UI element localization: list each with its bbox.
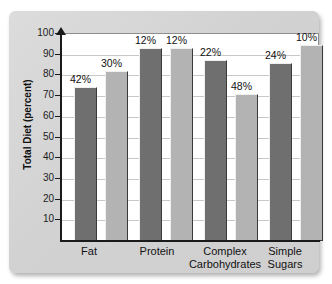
y-tick-label-30: 30	[14, 173, 54, 183]
y-tick-label-50: 50	[14, 132, 54, 142]
bar-fat-light	[105, 71, 128, 241]
value-label-complexcarb-light: 48%	[231, 81, 252, 92]
y-tick-label-90: 90	[14, 49, 54, 59]
bar-simplesugar-dark	[269, 63, 292, 241]
x-category-label-protein: Protein	[123, 245, 191, 258]
bar-protein-light	[170, 48, 193, 241]
x-category-label-complexcarbs: Complex Carbohydrates	[184, 245, 266, 270]
bar-protein-dark	[139, 48, 162, 241]
bars-layer: 42% 30% 12% 12% 22% 48% 24% 10%	[60, 33, 319, 241]
value-label-protein-dark: 12%	[135, 35, 156, 46]
x-axis-line	[60, 240, 320, 242]
bar-simplesugar-light	[300, 45, 323, 241]
value-label-simplesugar-dark: 24%	[265, 50, 286, 61]
y-tick-label-70: 70	[14, 90, 54, 100]
value-label-fat-light: 30%	[101, 58, 122, 69]
y-axis-ticks: 100 90 80 70 60 50 40 30 20 10	[9, 11, 54, 284]
y-axis-line	[60, 33, 62, 241]
y-tick-label-40: 40	[14, 152, 54, 162]
y-tick-label-10: 10	[14, 214, 54, 224]
bar-complexcarb-dark	[204, 60, 227, 241]
bar-complexcarb-light	[235, 94, 258, 241]
y-tick-label-20: 20	[14, 194, 54, 204]
x-category-label-fat: Fat	[59, 245, 119, 258]
chart-screenshot: Total Diet (percent)	[0, 0, 332, 284]
x-category-label-simplesugars: Simple Sugars	[255, 245, 315, 270]
value-label-fat-dark: 42%	[70, 74, 91, 85]
value-label-protein-light: 12%	[166, 35, 187, 46]
bar-fat-dark	[74, 87, 97, 241]
value-label-simplesugar-light: 10%	[296, 32, 317, 43]
y-tick-label-60: 60	[14, 111, 54, 121]
value-label-complexcarb-dark: 22%	[200, 47, 221, 58]
y-tick-label-80: 80	[14, 69, 54, 79]
chart-card: Total Diet (percent)	[9, 11, 319, 273]
y-tick-label-100: 100	[14, 28, 54, 38]
